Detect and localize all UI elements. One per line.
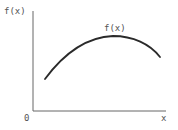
function-diagram: f(x) f(x) 0 x (0, 0, 178, 130)
origin-label: 0 (24, 113, 29, 123)
x-axis-label: x (161, 113, 167, 123)
function-curve (45, 36, 160, 79)
y-axis-label: f(x) (4, 6, 26, 16)
curve-label: f(x) (104, 23, 126, 33)
